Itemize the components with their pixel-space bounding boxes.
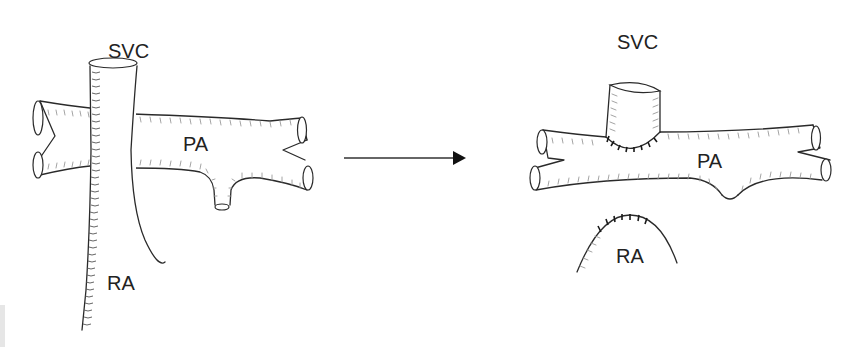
edge-artifact — [0, 305, 5, 347]
after-svc-vessel — [606, 83, 660, 152]
after-pa-label: PA — [697, 151, 722, 171]
after-svc-label: SVC — [617, 32, 658, 52]
before-panel — [33, 58, 313, 336]
before-pa-vessel — [33, 101, 313, 210]
before-svc-ra-vessel — [82, 58, 165, 336]
diagram-figure: SVC PA RA SVC PA RA — [0, 0, 868, 347]
before-svc-label: SVC — [108, 41, 149, 61]
before-pa-label: PA — [183, 134, 208, 154]
transition-arrow — [344, 151, 466, 165]
before-ra-label: RA — [107, 273, 135, 293]
after-ra-label: RA — [616, 246, 644, 266]
after-panel — [530, 83, 831, 272]
after-pa-vessel — [530, 125, 831, 199]
